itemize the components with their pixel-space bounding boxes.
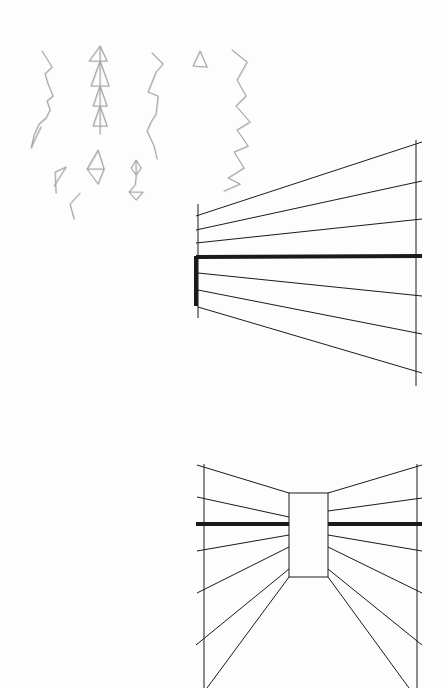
sketch-shadow bbox=[225, 51, 251, 192]
sketch-shadow bbox=[88, 151, 105, 185]
sketch-chain-3 bbox=[147, 53, 163, 159]
perspective-drawing-2 bbox=[196, 464, 422, 688]
persp1-orthogonal-line bbox=[198, 273, 422, 296]
persp2-orthogonal-line bbox=[197, 535, 289, 551]
sketch-scene bbox=[0, 0, 447, 688]
sketch-shadow bbox=[148, 54, 164, 160]
persp2-back-wall bbox=[289, 493, 328, 577]
persp1-orthogonal-line bbox=[198, 290, 422, 334]
persp2-orthogonal-line bbox=[328, 577, 409, 688]
pencil-sketches bbox=[31, 46, 251, 220]
persp2-orthogonal-line bbox=[197, 547, 289, 593]
persp1-orthogonal-line bbox=[198, 307, 422, 373]
persp1-horizon-line bbox=[196, 256, 422, 257]
persp2-orthogonal-line bbox=[207, 577, 289, 688]
persp2-orthogonal-line bbox=[197, 497, 289, 517]
persp2-orthogonal-line bbox=[328, 569, 422, 645]
persp2-orthogonal-line bbox=[328, 547, 422, 593]
sketch-chain-4 bbox=[224, 50, 250, 191]
drawing-canvas bbox=[0, 0, 447, 688]
persp2-orthogonal-line bbox=[328, 498, 422, 511]
persp2-orthogonal-line bbox=[328, 465, 422, 493]
persp2-orthogonal-line bbox=[197, 465, 289, 493]
sketch-chain-1 bbox=[31, 51, 53, 148]
persp2-orthogonal-line bbox=[196, 569, 289, 645]
sketch-shadow bbox=[32, 52, 54, 149]
persp2-orthogonal-line bbox=[328, 535, 422, 551]
